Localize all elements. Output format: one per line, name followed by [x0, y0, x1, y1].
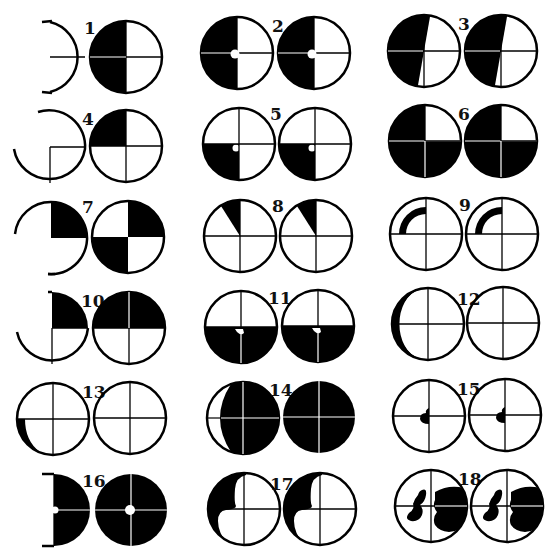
pair-1: 1	[42, 18, 162, 93]
pair-6-right-circle	[465, 105, 537, 177]
pair-18-right-circle	[471, 470, 545, 542]
pair-5-left-circle	[203, 108, 275, 180]
pair-3-left-circle	[384, 11, 460, 91]
pair-2-right-circle	[278, 17, 350, 89]
pair-number: 2	[272, 16, 284, 36]
pair-number: 15	[457, 379, 481, 399]
pair-4: 4	[14, 109, 162, 183]
pair-14: 14	[207, 380, 355, 454]
pair-3-right-circle	[461, 11, 537, 91]
pair-number: 6	[458, 104, 470, 124]
pair-2-left-circle	[201, 17, 273, 89]
pair-11-left-circle	[205, 291, 277, 363]
pair-5: 5	[203, 104, 351, 180]
pair-8: 8	[204, 196, 352, 272]
pair-number: 4	[82, 109, 94, 129]
pair-15-right-circle	[469, 379, 541, 451]
pair-number: 13	[82, 382, 106, 402]
pair-15: 15	[393, 379, 541, 452]
pair-12: 12	[392, 287, 539, 360]
pair-16: 16	[42, 471, 167, 546]
pair-1-left-circle	[42, 21, 86, 93]
pair-13-left-circle	[17, 383, 89, 455]
pair-6-left-circle	[389, 105, 461, 177]
pair-13: 13	[17, 382, 166, 455]
pair-1-right-circle	[90, 21, 162, 93]
circle-figure-diagram: 1 2	[0, 0, 556, 558]
pair-10-right-circle	[93, 292, 165, 364]
pair-15-left-circle	[393, 380, 465, 452]
pair-10-left-circle	[17, 292, 88, 364]
pair-number: 1	[84, 18, 96, 38]
pair-11: 11	[205, 288, 354, 363]
pair-3: 3	[384, 11, 537, 91]
pair-17: 17	[204, 469, 356, 549]
pair-18: 18	[395, 469, 545, 542]
pair-9-right-circle	[466, 198, 538, 270]
pair-2: 2	[201, 16, 350, 89]
pair-9: 9	[390, 195, 538, 270]
pair-9-left-circle	[390, 198, 462, 270]
pair-number: 16	[82, 471, 106, 491]
pair-17-left-circle	[204, 469, 280, 549]
pair-number: 8	[272, 196, 284, 216]
pair-4-right-circle	[90, 110, 162, 182]
pair-8-right-circle	[280, 200, 352, 272]
pair-14-right-circle	[283, 381, 355, 453]
pair-7-right-circle	[92, 201, 164, 273]
pair-4-left-circle	[14, 110, 85, 183]
pair-13-right-circle	[94, 382, 166, 454]
pair-6: 6	[389, 104, 537, 177]
pair-number: 7	[82, 197, 94, 217]
pair-number: 5	[270, 104, 282, 124]
pair-16-right-circle	[95, 474, 167, 546]
pair-10: 10	[17, 291, 165, 364]
pair-number: 9	[459, 195, 471, 215]
pair-7-left-circle	[15, 202, 87, 274]
pair-8-left-circle	[204, 200, 276, 272]
pair-number: 3	[458, 14, 470, 34]
pair-12-right-circle	[467, 287, 539, 359]
pair-11-right-circle	[282, 290, 354, 362]
pair-5-right-circle	[279, 108, 351, 180]
pair-12-left-circle	[392, 288, 464, 360]
pair-7: 7	[15, 197, 164, 274]
